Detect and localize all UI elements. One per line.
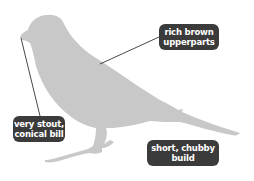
build-label-line1: short, chubby [151, 143, 215, 153]
upperparts-label: rich brown upperparts [159, 24, 219, 50]
upperparts-label-line2: upperparts [163, 37, 214, 47]
build-label: short, chubby build [147, 140, 219, 166]
bird-field-mark-diagram: rich brown upperparts very stout, conica… [0, 0, 254, 181]
bill-label-line2: conical bill [15, 129, 64, 139]
bill-label: very stout, conical bill [13, 116, 65, 142]
upperparts-label-line1: rich brown [164, 27, 213, 37]
upperparts-leader-line [100, 37, 159, 64]
bill-label-line1: very stout, [14, 119, 64, 129]
build-label-line2: build [171, 153, 194, 163]
